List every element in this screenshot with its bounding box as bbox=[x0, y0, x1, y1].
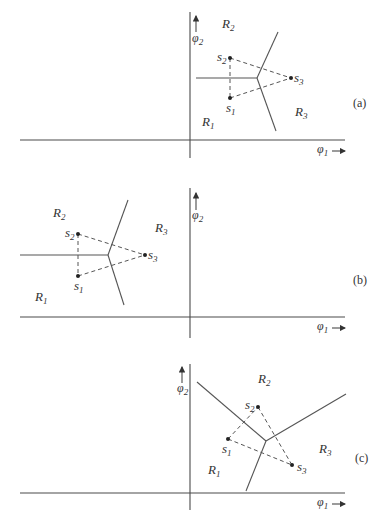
dashed-s2-s3 bbox=[230, 58, 291, 78]
phi1-label: φ1 bbox=[317, 319, 328, 335]
region-label-r2: R2 bbox=[221, 16, 235, 33]
point-label-s3: s3 bbox=[148, 247, 158, 264]
point-label-s2: s2 bbox=[217, 49, 227, 66]
phi2-label: φ2 bbox=[177, 381, 189, 397]
point-label-s1: s1 bbox=[222, 441, 232, 458]
dashed-s2-s3 bbox=[78, 234, 145, 255]
panel-label-b: (b) bbox=[353, 273, 367, 287]
region-label-r1: R1 bbox=[201, 114, 214, 131]
region-label-r2: R2 bbox=[52, 205, 66, 222]
point-label-s3: s3 bbox=[297, 459, 307, 476]
phi1-label: φ1 bbox=[317, 495, 328, 511]
point-label-s1: s1 bbox=[74, 278, 84, 295]
boundary-r2-r3 bbox=[266, 394, 346, 441]
region-label-r2: R2 bbox=[257, 371, 271, 388]
boundary-r2-r3 bbox=[257, 32, 278, 78]
point-label-s2: s2 bbox=[245, 397, 255, 414]
panel-b: φ2 φ1 s1 s2 s3 R1 R2 R3 (b) bbox=[20, 188, 367, 338]
region-label-r1: R1 bbox=[34, 289, 47, 306]
panel-c: φ2 φ1 s1 s2 s3 R1 R2 R3 (c) bbox=[20, 364, 368, 511]
phi2-label: φ2 bbox=[192, 208, 204, 224]
boundary-r1-r2 bbox=[197, 382, 266, 441]
panel-label-c: (c) bbox=[355, 451, 368, 465]
phi2-label: φ2 bbox=[192, 31, 204, 47]
signal-point-s2 bbox=[228, 56, 232, 60]
point-label-s3: s3 bbox=[294, 70, 304, 87]
signal-point-s2 bbox=[76, 232, 80, 236]
region-label-r1: R1 bbox=[207, 462, 220, 479]
dashed-s1-s3 bbox=[228, 439, 292, 465]
panel-label-a: (a) bbox=[353, 96, 366, 110]
signal-point-s3 bbox=[289, 76, 293, 80]
region-label-r3: R3 bbox=[154, 220, 168, 237]
boundary-r1-r3 bbox=[246, 441, 266, 491]
point-label-s1: s1 bbox=[226, 100, 236, 117]
decision-regions-figure: φ2 φ1 s1 s2 s3 R1 R2 R3 (a) φ2 φ1 bbox=[0, 0, 388, 517]
signal-point-s2 bbox=[256, 405, 260, 409]
signal-point-s3 bbox=[143, 253, 147, 257]
panel-a: φ2 φ1 s1 s2 s3 R1 R2 R3 (a) bbox=[20, 12, 366, 158]
region-label-r3: R3 bbox=[294, 104, 308, 121]
dashed-s1-s3 bbox=[78, 255, 145, 276]
signal-point-s3 bbox=[290, 463, 294, 467]
region-label-r3: R3 bbox=[318, 441, 332, 458]
boundary-r2-r3 bbox=[108, 200, 128, 255]
point-label-s2: s2 bbox=[65, 225, 75, 242]
phi1-label: φ1 bbox=[317, 142, 328, 158]
